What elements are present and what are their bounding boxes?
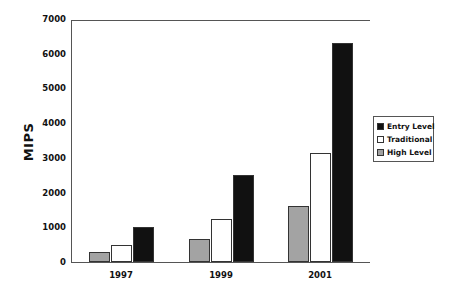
bar-entry-level-2001 xyxy=(332,43,353,262)
legend-item-high-level: High Level xyxy=(377,146,430,159)
bar-high-level-1999 xyxy=(189,239,210,262)
bar-traditional-1997 xyxy=(111,245,132,262)
legend: Entry Level Traditional High Level xyxy=(373,116,434,162)
plot-area xyxy=(71,20,370,263)
legend-item-traditional: Traditional xyxy=(377,133,430,146)
x-tick-label: 2001 xyxy=(295,270,345,280)
y-tick-label: 6000 xyxy=(26,49,66,59)
y-tick-label: 4000 xyxy=(26,118,66,128)
y-tick-label: 1000 xyxy=(26,222,66,232)
legend-swatch-entry-level xyxy=(377,123,384,130)
x-tick-label: 1997 xyxy=(96,270,146,280)
legend-item-entry-level: Entry Level xyxy=(377,120,430,133)
bar-high-level-1997 xyxy=(89,252,110,262)
x-tick-label: 1999 xyxy=(196,270,246,280)
y-tick-label: 2000 xyxy=(26,188,66,198)
legend-swatch-traditional xyxy=(377,136,384,143)
legend-swatch-high-level xyxy=(377,149,384,156)
y-tick-label: 0 xyxy=(26,257,66,267)
bar-traditional-2001 xyxy=(310,153,331,262)
y-tick-label: 3000 xyxy=(26,153,66,163)
bar-entry-level-1999 xyxy=(233,175,254,262)
bar-entry-level-1997 xyxy=(133,227,154,262)
y-tick-label: 7000 xyxy=(26,14,66,24)
y-tick-label: 5000 xyxy=(26,83,66,93)
bar-high-level-2001 xyxy=(288,206,309,262)
bar-traditional-1999 xyxy=(211,219,232,262)
